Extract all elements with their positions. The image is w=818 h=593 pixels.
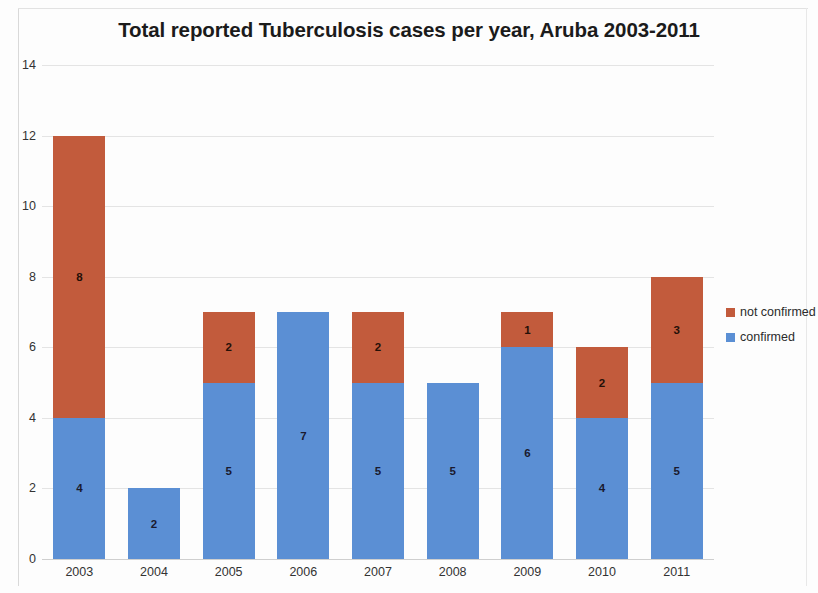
y-axis-tick-label: 8 [0, 270, 36, 284]
legend-item[interactable]: confirmed [726, 327, 816, 347]
bar-value-label: 2 [352, 341, 404, 353]
page-frame-top-edge [18, 8, 808, 9]
bar-value-label: 5 [427, 465, 479, 477]
x-axis-tick-label: 2004 [117, 565, 192, 579]
x-axis-tick-label: 2003 [42, 565, 117, 579]
chart-title: Total reported Tuberculosis cases per ye… [0, 18, 818, 42]
bar-segment-not-confirmed[interactable]: 2 [203, 312, 255, 383]
bar-group[interactable]: 61 [501, 312, 553, 559]
chart-legend: not confirmedconfirmed [726, 302, 816, 352]
bar-group[interactable]: 7 [277, 312, 329, 559]
bar-value-label: 4 [53, 482, 105, 494]
bar-segment-confirmed[interactable]: 5 [651, 383, 703, 559]
page-frame-right-edge [806, 8, 807, 586]
bar-value-label: 7 [277, 430, 329, 442]
y-axis-tick-label: 12 [0, 129, 36, 143]
bar-value-label: 4 [576, 482, 628, 494]
bar-value-label: 3 [651, 324, 703, 336]
bar-group[interactable]: 52 [203, 312, 255, 559]
x-axis-tick-label: 2010 [565, 565, 640, 579]
bar-segment-confirmed[interactable]: 5 [427, 383, 479, 559]
x-axis-tick-label: 2007 [341, 565, 416, 579]
bar-segment-confirmed[interactable]: 4 [53, 418, 105, 559]
x-axis-tick-label: 2005 [191, 565, 266, 579]
y-axis-tick-label: 14 [0, 58, 36, 72]
gridline [42, 136, 714, 137]
bar-segment-not-confirmed[interactable]: 1 [501, 312, 553, 347]
x-axis-tick-label: 2008 [415, 565, 490, 579]
bar-segment-confirmed[interactable]: 5 [352, 383, 404, 559]
bar-segment-not-confirmed[interactable]: 2 [576, 347, 628, 418]
y-axis-tick-label: 6 [0, 340, 36, 354]
chart-figure: Total reported Tuberculosis cases per ye… [0, 0, 818, 593]
y-axis-tick-label: 10 [0, 199, 36, 213]
bar-segment-confirmed[interactable]: 2 [128, 488, 180, 559]
bar-group[interactable]: 42 [576, 347, 628, 559]
legend-item-label: not confirmed [740, 305, 816, 319]
y-axis-tick-label: 0 [0, 552, 36, 566]
bar-group[interactable]: 5 [427, 383, 479, 559]
bar-value-label: 2 [128, 518, 180, 530]
bar-value-label: 2 [576, 377, 628, 389]
y-axis: 02468101214 [0, 65, 36, 559]
bar-segment-not-confirmed[interactable]: 3 [651, 277, 703, 383]
bar-value-label: 1 [501, 324, 553, 336]
bar-value-label: 6 [501, 447, 553, 459]
plot-area: 482527525614253 [42, 65, 714, 559]
y-axis-tick-label: 4 [0, 411, 36, 425]
gridline [42, 65, 714, 66]
x-axis-tick-label: 2009 [490, 565, 565, 579]
bar-value-label: 5 [203, 465, 255, 477]
bar-group[interactable]: 52 [352, 312, 404, 559]
bar-group[interactable]: 48 [53, 136, 105, 559]
x-axis-tick-label: 2011 [639, 565, 714, 579]
bar-value-label: 8 [53, 271, 105, 283]
bar-value-label: 5 [651, 465, 703, 477]
bar-value-label: 2 [203, 341, 255, 353]
legend-swatch-icon [726, 333, 735, 342]
gridline [42, 277, 714, 278]
bar-segment-not-confirmed[interactable]: 8 [53, 136, 105, 418]
x-axis: 200320042005200620072008200920102011 [42, 565, 714, 587]
bar-segment-confirmed[interactable]: 7 [277, 312, 329, 559]
legend-swatch-icon [726, 308, 735, 317]
bar-segment-not-confirmed[interactable]: 2 [352, 312, 404, 383]
bar-segment-confirmed[interactable]: 4 [576, 418, 628, 559]
bar-segment-confirmed[interactable]: 6 [501, 347, 553, 559]
x-axis-tick-label: 2006 [266, 565, 341, 579]
bar-value-label: 5 [352, 465, 404, 477]
bar-group[interactable]: 2 [128, 488, 180, 559]
bar-segment-confirmed[interactable]: 5 [203, 383, 255, 559]
bar-group[interactable]: 53 [651, 277, 703, 559]
legend-item-label: confirmed [740, 330, 795, 344]
gridline [42, 206, 714, 207]
legend-item[interactable]: not confirmed [726, 302, 816, 322]
gridline [42, 559, 714, 560]
y-axis-tick-label: 2 [0, 481, 36, 495]
